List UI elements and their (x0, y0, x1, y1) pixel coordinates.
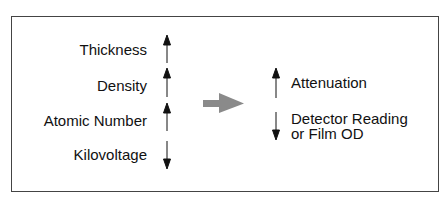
arrows-layer (0, 0, 448, 201)
down-arrow-icon (164, 141, 171, 169)
up-arrow-icon (273, 68, 280, 98)
up-arrow-icon (164, 35, 171, 63)
up-arrow-icon (164, 103, 171, 131)
down-arrow-icon (273, 112, 280, 140)
up-arrow-icon (164, 68, 171, 97)
right-arrow-icon (203, 93, 244, 113)
